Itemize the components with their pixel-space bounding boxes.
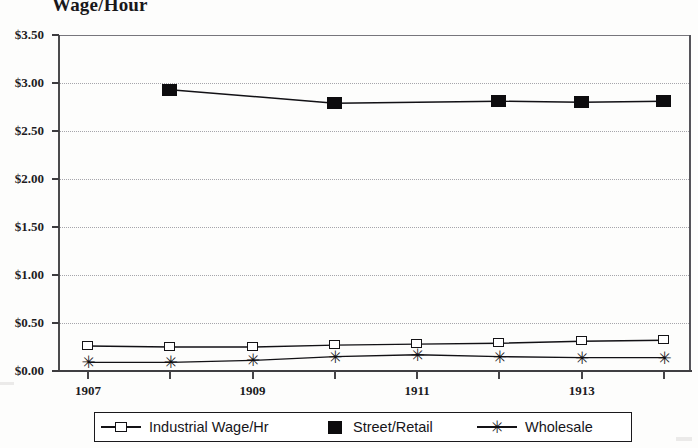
data-point-marker	[574, 96, 589, 108]
legend-swatch	[315, 419, 345, 435]
data-point-marker: ✳	[80, 354, 97, 371]
filled-square-icon	[328, 421, 342, 434]
x-tick-label: 1913	[569, 383, 595, 399]
legend-label: Industrial Wage/Hr	[149, 419, 269, 435]
data-point-marker	[576, 336, 587, 345]
scan-artifact	[676, 437, 692, 441]
data-point-marker: ✳	[574, 350, 591, 367]
star-icon: ✳	[488, 417, 506, 437]
legend-swatch	[101, 419, 141, 435]
data-point-marker: ✳	[245, 352, 262, 369]
data-point-marker	[162, 84, 177, 96]
data-point-marker	[658, 335, 669, 344]
data-point-marker: ✳	[656, 350, 673, 367]
x-tick-mark	[252, 371, 254, 379]
y-tick-label: $3.50	[15, 27, 44, 43]
series-markers: ✳✳✳✳✳✳✳✳	[58, 35, 690, 371]
x-tick-label: 1909	[240, 383, 266, 399]
legend-label: Street/Retail	[353, 419, 433, 435]
x-tick-mark	[581, 371, 583, 379]
y-tick-label: $1.00	[15, 267, 44, 283]
chart-screenshot: Wage/Hour $0.00$0.50$1.00$1.50$2.00$2.50…	[0, 0, 698, 448]
y-tick-label: $0.50	[15, 315, 44, 331]
x-tick-mark	[169, 371, 171, 379]
y-tick-label: $0.00	[15, 363, 44, 379]
x-tick-mark	[498, 371, 500, 379]
data-point-marker	[82, 341, 93, 350]
plot-area: $0.00$0.50$1.00$1.50$2.00$2.50$3.00$3.50…	[58, 35, 690, 370]
data-point-marker	[493, 338, 504, 347]
open-square-icon	[115, 422, 127, 432]
scan-artifact	[0, 382, 14, 385]
data-point-marker: ✳	[162, 354, 179, 371]
chart-title: Wage/Hour	[52, 0, 148, 16]
data-point-marker: ✳	[327, 349, 344, 366]
legend-entry[interactable]: ✳Wholesale	[477, 413, 593, 441]
y-tick-label: $1.50	[15, 219, 44, 235]
x-tick-mark	[87, 371, 89, 379]
y-tick-label: $2.00	[15, 171, 44, 187]
legend-swatch: ✳	[477, 419, 517, 435]
data-point-marker	[327, 97, 342, 109]
data-point-marker	[656, 95, 671, 107]
y-tick-label: $2.50	[15, 123, 44, 139]
data-point-marker	[164, 342, 175, 351]
data-point-marker: ✳	[409, 347, 426, 364]
legend-entry[interactable]: Street/Retail	[315, 413, 433, 441]
x-tick-mark	[663, 371, 665, 379]
x-tick-label: 1907	[75, 383, 101, 399]
x-tick-mark	[416, 371, 418, 379]
legend-entry[interactable]: Industrial Wage/Hr	[101, 413, 269, 441]
x-tick-mark	[334, 371, 336, 379]
x-tick-label: 1911	[404, 383, 429, 399]
data-point-marker	[491, 95, 506, 107]
legend-label: Wholesale	[525, 419, 593, 435]
y-tick-label: $3.00	[15, 75, 44, 91]
data-point-marker: ✳	[491, 349, 508, 366]
chart-legend: Industrial Wage/HrStreet/Retail✳Wholesal…	[94, 412, 632, 442]
